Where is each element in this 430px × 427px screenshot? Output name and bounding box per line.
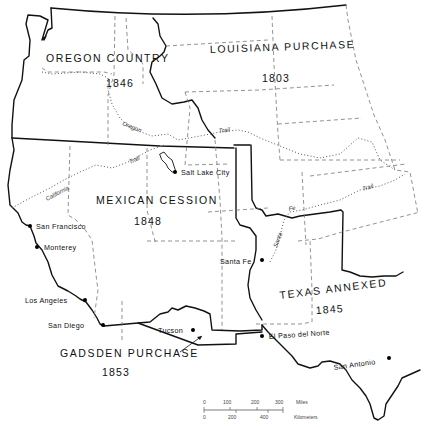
louisiana-cession-border — [251, 145, 403, 277]
city-label-santa-fe: Santa Fe — [220, 257, 252, 266]
svg-text:200: 200 — [251, 399, 260, 405]
gadsden-border — [138, 323, 262, 345]
trail-label-oregon: Oregon — [122, 120, 143, 133]
svg-text:300: 300 — [275, 399, 284, 405]
northern-border — [51, 5, 346, 14]
city-label-monterey: Monterey — [44, 243, 76, 252]
northern-mexican-border — [12, 138, 234, 148]
region-label-oregon-country: OREGON COUNTRY — [46, 52, 170, 64]
city-marker-los-angeles — [83, 298, 87, 302]
region-year-mexican-cession: 1848 — [134, 215, 162, 227]
city-label-san-francisco: San Francisco — [36, 222, 86, 231]
region-year-louisiana-purchase: 1803 — [262, 72, 290, 84]
svg-text:100: 100 — [223, 399, 232, 405]
region-year-texas-annexed: 1845 — [315, 302, 344, 316]
city-label-los-angeles: Los Angeles — [25, 296, 68, 305]
region-label-louisiana-purchase: LOUISIANA PURCHASE — [210, 38, 356, 55]
region-year-oregon-country: 1846 — [106, 77, 134, 89]
city-marker-el-paso-del-norte — [260, 334, 264, 338]
city-marker-tucson — [191, 328, 195, 332]
svg-text:0: 0 — [203, 399, 206, 405]
city-marker-san-antonio — [387, 356, 391, 360]
scale-miles-unit: Miles — [296, 399, 308, 405]
trail-label-oregon-trail-2: Trail — [128, 154, 141, 164]
trail-label-california: California — [45, 184, 71, 202]
trail-label-santa-fe-trail: Trail — [361, 183, 374, 192]
region-year-gadsden-purchase: 1853 — [102, 366, 130, 378]
city-label-san-diego: San Diego — [48, 321, 84, 330]
region-label-mexican-cession: MEXICAN CESSION — [96, 194, 218, 206]
city-marker-santa-fe — [260, 258, 264, 262]
scale-bar: 0 100 200 300 Miles 0 200 400 Kilometers — [203, 399, 318, 420]
city-label-san-antonio: San Antonio — [333, 357, 376, 372]
region-label-gadsden-purchase: GADSDEN PURCHASE — [60, 347, 199, 359]
trail-label-fe: Fe — [288, 205, 297, 212]
svg-text:400: 400 — [260, 414, 269, 420]
great-salt-lake — [160, 152, 176, 172]
continental-divide — [150, 18, 215, 138]
city-label-el-paso-del-norte: El Paso del Norte — [269, 328, 331, 341]
territorial-map: OREGON COUNTRY 1846 LOUISIANA PURCHASE 1… — [0, 0, 430, 427]
cession-texas-border — [236, 148, 262, 320]
scale-km-unit: Kilometers — [294, 414, 318, 420]
city-marker-san-diego — [101, 323, 105, 327]
region-label-texas-annexed: TEXAS ANNEXED — [279, 276, 388, 301]
trail-label-oregon-trail-1: Trail — [218, 126, 231, 134]
city-label-tucson: Tucson — [158, 326, 183, 335]
oregon-trail — [42, 72, 395, 170]
city-marker-salt-lake-city — [173, 170, 177, 174]
svg-text:200: 200 — [228, 414, 237, 420]
svg-text:0: 0 — [203, 414, 206, 420]
city-marker-san-francisco — [28, 224, 32, 228]
city-label-salt-lake-city: Salt Lake City — [181, 168, 230, 177]
region-labels: OREGON COUNTRY 1846 LOUISIANA PURCHASE 1… — [46, 38, 388, 378]
trail-label-santa: Santa — [272, 231, 283, 248]
city-marker-monterey — [35, 245, 39, 249]
trail-labels: Oregon Trail Trail California Santa Fe T… — [45, 120, 375, 248]
